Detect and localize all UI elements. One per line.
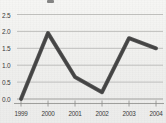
x-tick-label: 2003	[122, 110, 135, 117]
line-chart: 2.5 2.0 1.5 1.0 0.5 0.0 1999 2000 2001 2…	[0, 0, 166, 123]
x-tick-label: 2001	[68, 110, 81, 117]
y-tick-label: 1.5	[2, 45, 10, 52]
x-tick-label: 2004	[149, 110, 162, 117]
x-tick-label: 1999	[14, 110, 27, 117]
x-axis	[14, 101, 164, 107]
y-tick-label: 1.0	[2, 62, 10, 69]
y-tick-label: 0.5	[2, 79, 10, 86]
x-tick-label: 2002	[95, 110, 108, 117]
data-series-line	[21, 33, 156, 99]
plot-area	[0, 0, 166, 123]
y-tick-label: 2.0	[2, 28, 10, 35]
y-tick-label: 0.0	[2, 96, 10, 103]
y-tick-label: 2.5	[2, 11, 10, 18]
x-tick-label: 2000	[41, 110, 54, 117]
